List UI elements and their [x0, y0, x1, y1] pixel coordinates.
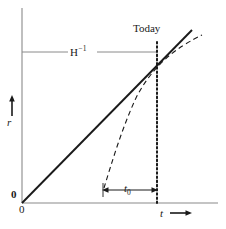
hubble-time-exponent: −1: [78, 44, 87, 53]
t0-label: t0: [124, 183, 131, 197]
y-axis-origin-label: 0: [11, 189, 17, 200]
plot-canvas: [0, 0, 226, 229]
decelerating-expansion-curve: [104, 35, 202, 188]
t-axis-arrow-icon: [170, 210, 192, 216]
r-axis-arrow-icon: [9, 95, 15, 116]
hubble-time-symbol: H: [70, 46, 78, 58]
y-axis-label: r: [7, 117, 11, 128]
x-axis-label: t: [160, 208, 163, 219]
x-axis-origin-label: 0: [19, 204, 25, 215]
today-label: Today: [133, 23, 160, 34]
cosmology-expansion-figure: Today H−1 t0 t r 0 0: [0, 0, 226, 229]
t0-subscript: 0: [127, 188, 131, 197]
hubble-time-label: H−1: [70, 45, 87, 58]
